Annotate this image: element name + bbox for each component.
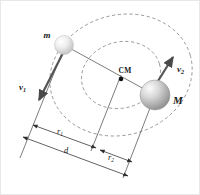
dimension-label-r2-subscript: 2 (111, 157, 114, 163)
dimension-label-r2: r2 (108, 152, 114, 163)
velocity-label-v1: v1 (19, 82, 26, 93)
extension-line-cm (91, 75, 121, 151)
velocity-label-v2-subscript: 2 (180, 69, 184, 75)
physics-diagram-figure: m M CM v1 v2 r1 r2 d (0, 0, 200, 195)
center-of-mass-label: CM (119, 66, 132, 75)
large-mass-sphere (140, 80, 170, 110)
separation-axis-line (64, 45, 155, 95)
center-of-mass-dot (119, 77, 124, 82)
small-mass-sphere (55, 36, 74, 55)
dimension-label-r1: r1 (57, 126, 63, 137)
dimension-label-r1-subscript: 1 (60, 131, 63, 137)
dimension-line-r2 (100, 150, 132, 162)
extension-line-group (20, 48, 155, 178)
small-mass-label: m (43, 30, 50, 40)
velocity-label-v1-subscript: 1 (23, 87, 26, 93)
diagram-canvas: m M CM v1 v2 r1 r2 d (1, 1, 200, 195)
velocity-label-v2: v2 (177, 64, 184, 75)
large-mass-label: M (172, 94, 184, 106)
